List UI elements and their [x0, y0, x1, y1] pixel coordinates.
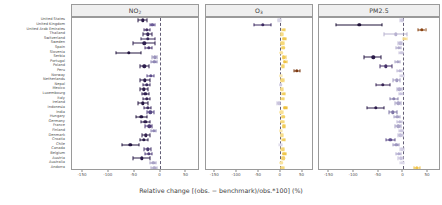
error-bar-cap [151, 32, 152, 35]
data-point [140, 115, 143, 118]
error-bar-cap [376, 83, 377, 86]
error-bar-cap [133, 42, 134, 45]
error-bar-cap [402, 134, 403, 137]
error-bar-cap [156, 129, 157, 132]
axis-tick-label: -50 [255, 173, 262, 177]
data-point [141, 102, 144, 105]
error-bar-cap [386, 138, 387, 141]
error-bar-cap [147, 19, 148, 22]
error-bar-cap [399, 143, 400, 146]
error-bar-cap [149, 120, 150, 123]
data-point [148, 111, 151, 114]
error-bar-cap [287, 106, 288, 109]
error-bar-cap [140, 37, 141, 40]
data-point [145, 83, 148, 86]
error-bar-cap [399, 78, 400, 81]
error-bar-cap [382, 23, 383, 26]
plot-area-no2 [71, 17, 199, 170]
panel-title-no2: NO2 [129, 7, 142, 14]
error-bar-cap [403, 129, 404, 132]
error-bar-cap [404, 161, 405, 164]
error-bar-cap [142, 97, 143, 100]
axis-tick-label: 50 [299, 173, 304, 177]
x-axis-label: Relative change [(obs. − benchmark)/obs.… [0, 187, 442, 194]
data-point [146, 106, 149, 109]
error-bar-cap [140, 51, 141, 54]
axis-tick-label: -50 [130, 173, 137, 177]
data-point [143, 65, 146, 68]
panel-pm25: PM2.5 -150-100-50050 [318, 4, 440, 170]
data-point [129, 143, 132, 146]
error-bar-cap [336, 23, 337, 26]
error-bar-cap [420, 166, 421, 169]
error-bar-cap [150, 161, 151, 164]
data-point [392, 97, 395, 100]
data-point [395, 143, 398, 146]
data-point [384, 65, 387, 68]
axis-tick-label: -150 [77, 173, 86, 177]
data-point [142, 138, 145, 141]
error-bar-cap [149, 78, 150, 81]
data-point [147, 46, 150, 49]
data-point [391, 111, 394, 114]
data-point [145, 97, 148, 100]
error-bar-cap [394, 138, 395, 141]
error-bar-cap [144, 152, 145, 155]
error-bar-cap [141, 134, 142, 137]
axis-tick-label: -100 [232, 173, 241, 177]
error-bar-cap [406, 32, 407, 35]
error-bar-cap [286, 152, 287, 155]
error-bar-cap [380, 65, 381, 68]
error-bar-cap [140, 78, 141, 81]
error-bar-cap [154, 74, 155, 77]
error-bar-cap [403, 51, 404, 54]
error-bar-cap [138, 143, 139, 146]
data-point [374, 106, 377, 109]
x-axis-pm25: -150-100-50050 [318, 170, 440, 180]
error-bar-cap [141, 92, 142, 95]
data-point [358, 23, 361, 26]
data-point [295, 69, 298, 72]
data-point [144, 120, 147, 123]
x-axis-o3: -150-100-50050 [205, 170, 313, 180]
x-axis-no2: -150-100-50050 [71, 170, 199, 180]
data-point [381, 83, 384, 86]
error-bar-cap [148, 138, 149, 141]
error-bar-cap [146, 111, 147, 114]
panel-strip-no2: NO2 [71, 4, 199, 17]
error-bar-cap [151, 55, 152, 58]
error-bar-cap [401, 46, 402, 49]
axis-tick-label: 0 [278, 173, 281, 177]
data-point [147, 152, 150, 155]
data-point [127, 51, 130, 54]
error-bar-cap [367, 106, 368, 109]
category-label: Andorra [51, 166, 65, 170]
panel-o3: O3 -150-100-50050 [205, 4, 313, 170]
error-bar-cap [150, 129, 151, 132]
error-bar-cap [148, 65, 149, 68]
data-point [420, 28, 423, 31]
error-bar-cap [383, 106, 384, 109]
error-bar-cap [151, 166, 152, 169]
data-point [372, 55, 375, 58]
data-point [394, 32, 397, 35]
data-point [143, 42, 146, 45]
axis-tick-label: -100 [103, 173, 112, 177]
error-bar-cap [115, 51, 116, 54]
error-bar-cap [390, 97, 391, 100]
error-bar-cap [156, 166, 157, 169]
error-bar-cap [384, 32, 385, 35]
error-bar-cap [406, 37, 407, 40]
error-bar-cap [401, 69, 402, 72]
error-bar-cap [151, 148, 152, 151]
data-point [415, 166, 418, 169]
error-bar-cap [400, 125, 401, 128]
error-bar-cap [149, 28, 150, 31]
data-point [395, 78, 398, 81]
error-bar-cap [364, 55, 365, 58]
error-bar-cap [136, 115, 137, 118]
error-bar-cap [401, 88, 402, 91]
error-bar-cap [400, 102, 401, 105]
error-bar-cap [144, 148, 145, 151]
error-bar-cap [138, 102, 139, 105]
